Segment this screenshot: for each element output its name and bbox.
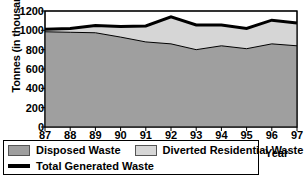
legend-label-diverted-residential-waste: Diverted Residential Waste [163,144,304,156]
chart-legend: Disposed Waste Diverted Residential Wast… [3,140,259,175]
legend-swatch-disposed-waste [8,145,30,156]
legend-swatch-diverted-residential-waste [135,145,157,156]
x-tick-label: 96 [260,130,284,141]
waste-area-chart-figure: Tonnes (in thousands) 020040060080010001… [0,0,305,179]
legend-row-top: Disposed Waste Diverted Residential Wast… [8,142,258,158]
legend-label-total-generated-waste: Total Generated Waste [36,160,154,172]
legend-row-bottom: Total Generated Waste [8,158,258,174]
legend-line-total-generated-waste [8,164,30,168]
x-tick-label: 97 [285,130,305,141]
legend-label-disposed-waste: Disposed Waste [36,144,121,156]
